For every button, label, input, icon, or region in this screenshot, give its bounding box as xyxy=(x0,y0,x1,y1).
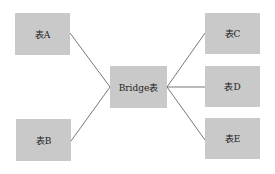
node-table-d: 表D xyxy=(205,66,260,107)
node-label: 表B xyxy=(36,134,52,147)
node-label: 表E xyxy=(225,132,241,145)
node-label: 表A xyxy=(35,28,51,41)
node-table-b: 表B xyxy=(16,119,71,161)
node-table-e: 表E xyxy=(205,118,260,159)
edge-bridge-c xyxy=(167,33,205,87)
node-label: 表D xyxy=(224,80,240,93)
edge-bridge-b xyxy=(71,87,110,141)
node-bridge-table: Bridge表 xyxy=(110,66,167,108)
node-table-a: 表A xyxy=(15,13,70,55)
node-label: Bridge表 xyxy=(119,81,159,94)
edge-bridge-e xyxy=(167,87,205,140)
node-table-c: 表C xyxy=(205,13,260,54)
node-label: 表C xyxy=(225,27,241,40)
edge-bridge-a xyxy=(70,33,110,87)
